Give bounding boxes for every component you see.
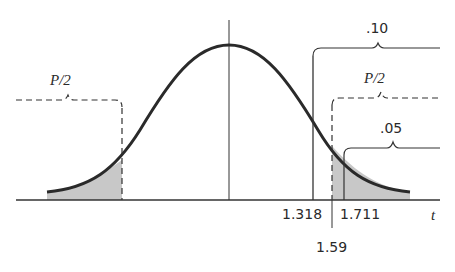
right-tail-bracket bbox=[332, 92, 440, 105]
tick-label-159: 1.59 bbox=[316, 239, 347, 255]
tick-label-1711: 1.711 bbox=[340, 206, 380, 222]
right-tail-label: P/2 bbox=[363, 70, 385, 86]
upper-05-label: .05 bbox=[380, 120, 402, 136]
upper-05-bracket bbox=[344, 142, 440, 155]
upper-10-bracket bbox=[313, 43, 440, 56]
upper-10-label: .10 bbox=[366, 20, 388, 36]
tick-label-1318: 1.318 bbox=[282, 206, 322, 222]
left-tail-bracket bbox=[16, 95, 122, 107]
axis-label-t: t bbox=[431, 207, 436, 223]
t-distribution-figure: P/2 .10 P/2 .05 1.318 1.711 1.59 t bbox=[0, 0, 455, 272]
left-tail-label: P/2 bbox=[49, 72, 71, 88]
